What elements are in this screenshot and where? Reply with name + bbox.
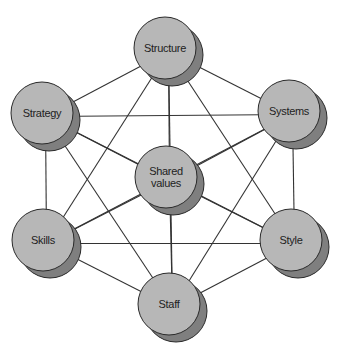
node-label: Staff xyxy=(159,298,181,310)
edge-structure-skills xyxy=(47,52,169,244)
node-label: values xyxy=(151,177,182,189)
node-label: Shared xyxy=(149,165,183,177)
node-style: Style xyxy=(260,209,329,278)
node-label: Systems xyxy=(269,105,310,117)
node-staff: Staff xyxy=(138,273,207,342)
node-systems: Systems xyxy=(258,80,327,149)
diagram-canvas: StructureStrategySystemsSharedvaluesSkil… xyxy=(0,0,342,356)
node-label: Strategy xyxy=(23,107,62,119)
node-label: Style xyxy=(280,234,303,246)
node-skills: Skills xyxy=(12,209,81,278)
node-label: Structure xyxy=(144,42,186,54)
edge-systems-staff xyxy=(173,115,293,308)
node-label: Skills xyxy=(31,234,56,246)
node-strategy: Strategy xyxy=(11,82,80,151)
node-layer: StructureStrategySystemsSharedvaluesSkil… xyxy=(11,17,329,342)
node-structure: Structure xyxy=(134,17,203,86)
seven-s-framework-diagram: StructureStrategySystemsSharedvaluesSkil… xyxy=(0,0,342,356)
node-shared-values: Sharedvalues xyxy=(135,146,204,215)
